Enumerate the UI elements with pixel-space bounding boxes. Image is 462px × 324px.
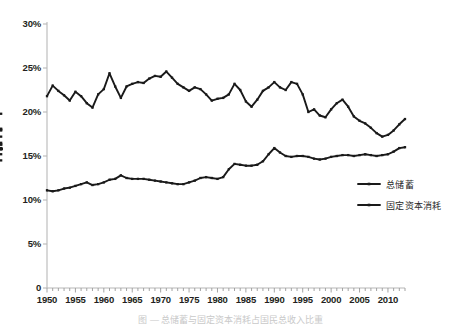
chart-figure: 30%25%20%15%10%5%0 195019551960196519701… [0,0,462,324]
y-tick-label: 20% [4,106,41,117]
legend-item-label: 固定资本消耗 [386,199,442,212]
y-tick-label: 15% [4,150,41,161]
legend-item-label: 总储蓄 [386,178,414,191]
x-tick-label: 2010 [368,294,408,305]
chart-series-lines [0,70,406,192]
y-tick-label: 10% [4,194,41,205]
y-tick-label: 5% [4,238,41,249]
y-tick-label: 30% [4,18,41,29]
figure-caption: 图 — 总储蓄与固定资本消耗占国民总收入比重 [0,314,462,324]
legend-swatches [358,183,380,207]
chart-tick-marks [43,24,405,293]
y-tick-label: 25% [4,62,41,73]
chart-plot-area [0,0,462,324]
y-tick-label: 0 [4,282,41,293]
